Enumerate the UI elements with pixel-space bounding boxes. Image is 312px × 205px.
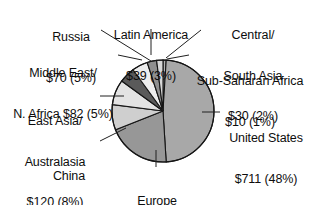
- pie-label-europe: Europe $289 (20%): [107, 168, 207, 205]
- pie-label-middle-east-north-africa-line1: Middle East/: [2, 67, 124, 81]
- pie-label-europe-line1: Europe: [107, 195, 207, 205]
- pie-label-central-south-asia-line1: Central/: [203, 29, 303, 43]
- pie-label-china-line1: China: [28, 170, 110, 184]
- pie-label-east-asia-australasia-line1: East Asia/: [2, 115, 108, 129]
- pie-label-china: China $122 (8%): [28, 143, 110, 205]
- pie-label-united-states: United States $711 (48%): [222, 105, 310, 205]
- pie-chart-figure: Russia $70 (5%) Latin America $39 (3%) C…: [0, 0, 312, 205]
- pie-label-united-states-line1: United States: [222, 132, 310, 146]
- pie-label-sub-saharan-africa-line1: Sub-Saharan Africa: [190, 75, 310, 89]
- pie-label-united-states-line2: $711 (48%): [222, 173, 310, 187]
